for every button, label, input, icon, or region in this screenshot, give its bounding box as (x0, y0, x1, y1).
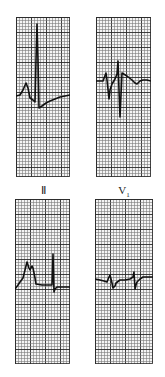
ecg-grid-bottom-right (95, 199, 153, 364)
ecg-figure: Ⅱ V1 (0, 0, 165, 377)
lead-label-ii: Ⅱ (23, 184, 63, 196)
ecg-panel-lead-ii-top (16, 17, 70, 177)
ecg-grid-bottom-left (15, 199, 70, 364)
ecg-grid-top-left (16, 17, 70, 177)
ecg-panel-lead-ii-bottom (15, 199, 70, 364)
ecg-panel-lead-v1-top (96, 17, 151, 177)
lead-label-ii-text: Ⅱ (41, 184, 46, 196)
ecg-panel-lead-v1-bottom (95, 199, 153, 364)
lead-label-v1-subscript: 1 (126, 191, 130, 199)
ecg-grid-top-right (96, 17, 151, 177)
